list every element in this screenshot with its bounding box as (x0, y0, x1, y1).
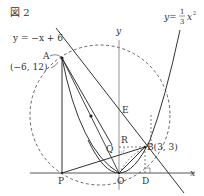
label-A-pointer (50, 55, 61, 57)
point-O (118, 172, 120, 174)
parabola-eq-prefix: y= (163, 12, 177, 22)
line-y-neg-x-plus-6 (56, 28, 184, 193)
label-P: P (58, 176, 64, 186)
parabola-eq-denominator: 3 (180, 18, 184, 26)
dashed-circle (30, 45, 170, 185)
label-O: O (117, 176, 124, 186)
parabola-eq-numerator: 1 (180, 8, 184, 16)
point-B (144, 146, 146, 148)
right-angle-R (119, 147, 124, 152)
label-D: D (142, 176, 149, 186)
parabola-eq-exp: 2 (193, 10, 196, 16)
right-angle-D (145, 168, 150, 173)
label-A-coord-pointer (51, 62, 58, 68)
geometry-figure: 図 2 y x y = −x + 6 A (−6, 12) y= 1 3 x 2… (0, 0, 204, 196)
line-equation-label: y = −x + 6 (12, 33, 63, 43)
label-A: A (42, 51, 50, 61)
y-axis-label: y (115, 26, 122, 36)
parabola-eq-var: x (187, 12, 192, 22)
circle-center (89, 114, 92, 117)
label-B: B(3, 3) (147, 142, 178, 152)
label-A-coord: (−6, 12) (10, 62, 47, 72)
label-E: E (122, 105, 129, 115)
point-P (61, 172, 63, 174)
figure-title: 図 2 (10, 7, 30, 18)
x-axis-label: x (190, 168, 195, 178)
label-Q: Q (106, 144, 113, 154)
segment-AQ (62, 58, 112, 145)
label-R: R (121, 135, 128, 145)
